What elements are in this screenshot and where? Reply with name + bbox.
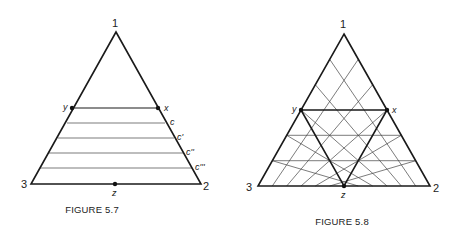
vertex-label-3: 3 (21, 178, 27, 190)
figures-canvas: 1 2 3 y x z c c' c'' c''' FIGURE 5.7 (0, 0, 454, 232)
vertex-label-1: 1 (112, 17, 118, 29)
figure-5-8: 1 2 3 y x z FIGURE 5.8 (246, 18, 439, 227)
point-label-y: y (62, 102, 68, 112)
point-label-z: z (340, 190, 346, 200)
figure-caption: FIGURE 5.8 (315, 216, 369, 227)
level-label-c-prime: c' (177, 132, 184, 142)
point-label-z: z (111, 188, 117, 198)
point-x (156, 106, 160, 110)
level-label-c: c (170, 117, 175, 127)
point-y (299, 108, 303, 112)
vertex-label-2: 2 (203, 180, 209, 192)
point-label-y: y (291, 104, 297, 114)
vertex-label-3: 3 (246, 181, 252, 193)
vertex-label-1: 1 (340, 18, 346, 30)
point-y (70, 106, 74, 110)
vertex-label-2: 2 (433, 182, 439, 194)
grid-diag-ab-1 (272, 59, 358, 186)
level-label-c-double-prime: c'' (186, 147, 194, 157)
point-label-x: x (391, 105, 397, 115)
point-z (342, 184, 346, 188)
point-z (113, 182, 117, 186)
point-x (385, 108, 389, 112)
figure-5-7: 1 2 3 y x z c c' c'' c''' FIGURE 5.7 (21, 17, 209, 215)
figure-caption: FIGURE 5.7 (65, 204, 119, 215)
level-label-c-triple-prime: c''' (195, 162, 205, 172)
point-label-x: x (163, 103, 169, 113)
